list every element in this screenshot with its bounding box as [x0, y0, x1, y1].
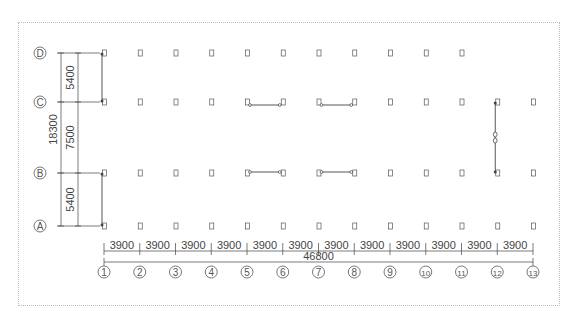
turnbuckle-icon — [493, 132, 497, 137]
axis-label-A: A — [37, 221, 44, 232]
column-D-3 — [174, 50, 178, 56]
column-C-8 — [353, 99, 357, 105]
column-B-4 — [210, 170, 214, 176]
column-A-4 — [210, 223, 214, 229]
column-A-9 — [389, 223, 393, 229]
column-A-2 — [138, 223, 142, 229]
column-B-3 — [174, 170, 178, 176]
brace-node — [350, 104, 353, 107]
axis-label-6: 6 — [280, 267, 286, 278]
axis-label-2: 2 — [137, 267, 143, 278]
axis-label-11: 11 — [457, 269, 466, 278]
brace-node — [249, 171, 252, 174]
column-D-5 — [246, 50, 250, 56]
brace-node — [278, 171, 281, 174]
bay-dimension-label: 3900 — [503, 239, 527, 251]
column-C-9 — [389, 99, 393, 105]
column-D-6 — [281, 50, 285, 56]
column-C-6 — [281, 99, 285, 105]
axis-grid-drawing: DCBA183005400750054003900390039003900390… — [0, 0, 576, 319]
column-D-7 — [317, 50, 321, 56]
bay-dimension-label: 3900 — [217, 239, 241, 251]
column-A-13 — [532, 223, 536, 229]
axis-label-C: C — [36, 97, 43, 108]
column-B-10 — [424, 170, 428, 176]
column-D-2 — [138, 50, 142, 56]
total-depth-label: 18300 — [47, 114, 59, 145]
axis-label-12: 12 — [493, 269, 502, 278]
brace-node — [249, 104, 252, 107]
axis-label-7: 7 — [316, 267, 322, 278]
axis-label-4: 4 — [208, 267, 214, 278]
column-D-11 — [460, 50, 464, 56]
column-B-13 — [532, 170, 536, 176]
column-A-5 — [246, 223, 250, 229]
axis-label-9: 9 — [387, 267, 393, 278]
column-B-6 — [281, 170, 285, 176]
bay-dimension-label: 3900 — [467, 239, 491, 251]
column-C-13 — [532, 99, 536, 105]
column-D-4 — [210, 50, 214, 56]
brace-node — [278, 104, 281, 107]
axis-label-3: 3 — [173, 267, 179, 278]
column-A-7 — [317, 223, 321, 229]
column-B-9 — [389, 170, 393, 176]
bay-dimension-label: 3900 — [110, 239, 134, 251]
column-D-9 — [389, 50, 393, 56]
row-dimension-label: 5400 — [64, 187, 76, 211]
column-A-3 — [174, 223, 178, 229]
bay-dimension-label: 3900 — [145, 239, 169, 251]
brace-node — [350, 171, 353, 174]
bay-dimension-label: 3900 — [360, 239, 384, 251]
axis-label-8: 8 — [351, 267, 357, 278]
column-A-8 — [353, 223, 357, 229]
bay-dimension-label: 3900 — [431, 239, 455, 251]
bay-dimension-label: 3900 — [396, 239, 420, 251]
column-A-12 — [496, 223, 500, 229]
column-A-10 — [424, 223, 428, 229]
brace-node — [494, 102, 497, 105]
column-C-4 — [210, 99, 214, 105]
bay-dimension-label: 3900 — [253, 239, 277, 251]
column-C-3 — [174, 99, 178, 105]
column-D-10 — [424, 50, 428, 56]
axis-label-10: 10 — [421, 269, 430, 278]
row-dimension-label: 7500 — [64, 125, 76, 149]
total-width-label: 46800 — [303, 250, 334, 262]
axis-label-13: 13 — [529, 269, 538, 278]
row-dimension-label: 5400 — [64, 65, 76, 89]
turnbuckle-icon — [493, 138, 497, 143]
axis-label-D: D — [36, 48, 43, 59]
axis-label-5: 5 — [244, 267, 250, 278]
brace-node — [101, 53, 104, 56]
column-B-8 — [353, 170, 357, 176]
brace-node — [101, 173, 104, 176]
axis-label-1: 1 — [101, 267, 107, 278]
column-A-11 — [460, 223, 464, 229]
column-B-11 — [460, 170, 464, 176]
column-A-6 — [281, 223, 285, 229]
brace-node — [101, 224, 104, 227]
axis-label-B: B — [37, 168, 44, 179]
column-D-8 — [353, 50, 357, 56]
brace-node — [320, 104, 323, 107]
brace-node — [494, 171, 497, 174]
column-C-2 — [138, 99, 142, 105]
column-B-2 — [138, 170, 142, 176]
column-C-11 — [460, 99, 464, 105]
column-C-10 — [424, 99, 428, 105]
brace-node — [320, 171, 323, 174]
brace-node — [101, 100, 104, 103]
bay-dimension-label: 3900 — [181, 239, 205, 251]
